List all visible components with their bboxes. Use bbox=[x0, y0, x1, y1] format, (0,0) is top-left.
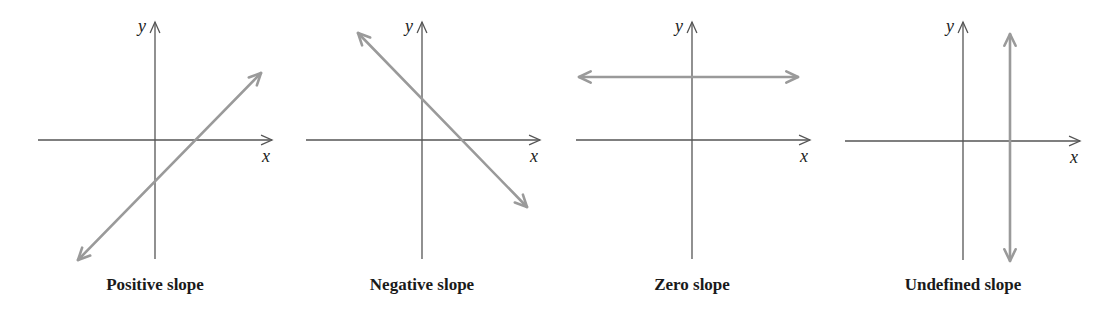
y-axis-label: y bbox=[944, 16, 954, 36]
panel-caption: Undefined slope bbox=[905, 275, 1022, 294]
y-axis-label: y bbox=[136, 16, 146, 36]
x-axis-label: x bbox=[799, 146, 808, 166]
panel-positive-slope: x y Positive slope bbox=[38, 16, 272, 294]
x-axis-label: x bbox=[529, 146, 538, 166]
slope-types-figure: x y Positive slope x y Negative slope x … bbox=[0, 0, 1116, 317]
panel-caption: Positive slope bbox=[106, 275, 204, 294]
panel-zero-slope: x y Zero slope bbox=[576, 16, 810, 294]
x-axis-label: x bbox=[261, 146, 270, 166]
y-axis-label: y bbox=[673, 16, 683, 36]
y-axis-label: y bbox=[403, 16, 413, 36]
panel-undefined-slope: x y Undefined slope bbox=[845, 16, 1080, 294]
x-axis-label: x bbox=[1069, 147, 1078, 167]
panel-caption: Zero slope bbox=[654, 275, 730, 294]
slope-line bbox=[78, 73, 261, 260]
slope-line bbox=[358, 33, 527, 207]
panel-negative-slope: x y Negative slope bbox=[306, 16, 540, 294]
panel-caption: Negative slope bbox=[370, 275, 475, 294]
